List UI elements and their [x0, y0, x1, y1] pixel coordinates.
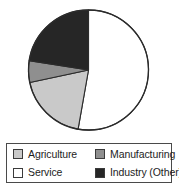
legend-item-manufacturing[interactable]: Manufacturing: [89, 145, 171, 164]
pie-chart-area: [0, 0, 179, 140]
legend-swatch-agriculture-icon: [13, 149, 23, 159]
pie-slice-industry-other[interactable]: [29, 10, 88, 70]
legend-swatch-service-icon: [13, 168, 23, 178]
chart-legend: Agriculture Manufacturing Service Indust…: [6, 143, 172, 183]
legend-item-agriculture[interactable]: Agriculture: [7, 145, 89, 164]
legend-swatch-manufacturing-icon: [95, 149, 105, 159]
legend-swatch-industry-other-icon: [95, 168, 105, 178]
legend-label-manufacturing: Manufacturing: [110, 149, 175, 160]
legend-item-industry-other[interactable]: Industry (Other): [89, 164, 171, 183]
legend-label-service: Service: [28, 167, 62, 178]
legend-label-industry-other: Industry (Other): [110, 167, 179, 178]
legend-label-agriculture: Agriculture: [28, 149, 77, 160]
pie-chart-svg: [0, 0, 179, 140]
legend-item-service[interactable]: Service: [7, 164, 89, 183]
pie-chart-figure: Agriculture Manufacturing Service Indust…: [0, 0, 179, 189]
